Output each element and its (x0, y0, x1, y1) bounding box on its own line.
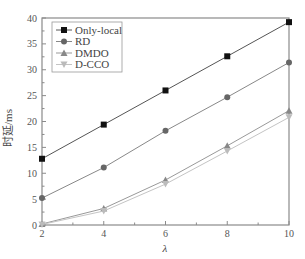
y-tick-label: 5 (32, 194, 37, 205)
line-chart: 0510152025303540 246810 Only-localRDDMDO… (0, 0, 305, 259)
x-axis-ticks: 246810 (40, 221, 295, 239)
y-tick-label: 40 (27, 13, 37, 24)
square-marker (286, 19, 292, 25)
square-marker (101, 122, 107, 128)
series-line (42, 111, 289, 224)
y-tick-label: 25 (27, 90, 37, 101)
square-marker (39, 156, 45, 162)
y-tick-label: 35 (27, 38, 37, 49)
legend-label: RD (75, 35, 90, 47)
x-tick-label: 2 (40, 228, 45, 239)
y-axis-title: 时延/ms (2, 109, 14, 147)
x-tick-label: 8 (225, 228, 230, 239)
x-tick-label: 4 (101, 228, 106, 239)
legend-label: Only-local (75, 24, 122, 36)
y-tick-label: 10 (27, 168, 37, 179)
series-dmdo (39, 107, 293, 227)
circle-marker (224, 94, 230, 100)
y-tick-label: 0 (32, 220, 37, 231)
circle-marker (286, 60, 292, 66)
x-tick-label: 10 (284, 228, 294, 239)
triangle-up-marker (224, 142, 231, 149)
square-marker (224, 53, 230, 59)
legend-label: D-CCO (75, 58, 109, 70)
x-axis-title: λ (162, 242, 168, 254)
legend-label: DMDO (75, 47, 109, 59)
legend: Only-localRDDMDOD-CCO (52, 22, 122, 72)
triangle-down-marker (224, 148, 231, 155)
circle-marker (39, 195, 45, 201)
square-marker (163, 87, 169, 93)
square-icon (61, 27, 67, 33)
circle-icon (61, 39, 67, 45)
y-tick-label: 20 (27, 116, 37, 127)
y-tick-label: 15 (27, 142, 37, 153)
circle-marker (163, 128, 169, 134)
circle-marker (101, 165, 107, 171)
triangle-down-marker (286, 114, 293, 121)
triangle-down-marker (162, 181, 169, 188)
triangle-up-marker (286, 107, 293, 114)
x-tick-label: 6 (163, 228, 168, 239)
y-tick-label: 30 (27, 64, 37, 75)
